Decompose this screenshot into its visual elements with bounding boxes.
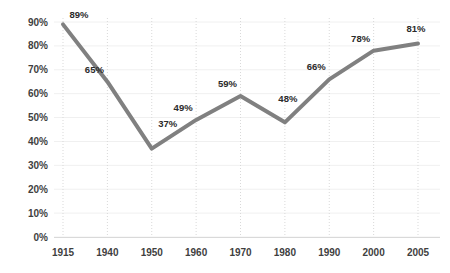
data-point-label: 65%	[85, 64, 105, 75]
x-axis-tick-label: 1950	[141, 247, 164, 258]
x-axis-tick-labels: 191519401950196019701980199020002005	[52, 247, 430, 258]
x-axis-tick-label: 1990	[318, 247, 341, 258]
x-axis-tick-label: 1915	[52, 247, 75, 258]
y-axis-tick-label: 10%	[28, 208, 48, 219]
data-point-label: 48%	[278, 93, 298, 104]
data-point-label: 66%	[307, 61, 327, 72]
y-axis-tick-label: 60%	[28, 88, 48, 99]
y-axis-tick-label: 0%	[34, 232, 49, 243]
x-axis-tick-label: 1980	[274, 247, 297, 258]
y-axis-tick-label: 30%	[28, 160, 48, 171]
line-chart: 0%10%20%30%40%50%60%70%80%90% 1915194019…	[0, 0, 450, 273]
x-axis-tick-label: 2005	[407, 247, 430, 258]
y-axis-tick-label: 50%	[28, 112, 48, 123]
data-point-label: 89%	[69, 9, 89, 20]
x-axis-tick-label: 1940	[96, 247, 119, 258]
x-axis-tick-label: 1970	[229, 247, 252, 258]
data-point-label: 78%	[351, 33, 371, 44]
y-axis-tick-label: 80%	[28, 40, 48, 51]
chart-background	[0, 0, 450, 273]
data-point-label: 37%	[158, 118, 178, 129]
data-point-label: 49%	[174, 102, 194, 113]
y-axis-tick-label: 20%	[28, 184, 48, 195]
y-axis-tick-label: 40%	[28, 136, 48, 147]
chart-canvas: 0%10%20%30%40%50%60%70%80%90% 1915194019…	[0, 0, 450, 273]
x-axis-tick-label: 2000	[363, 247, 386, 258]
y-axis-tick-label: 70%	[28, 64, 48, 75]
y-axis-tick-label: 90%	[28, 17, 48, 28]
x-axis-tick-label: 1960	[185, 247, 208, 258]
data-point-label: 81%	[406, 23, 426, 34]
data-point-label: 59%	[218, 78, 238, 89]
